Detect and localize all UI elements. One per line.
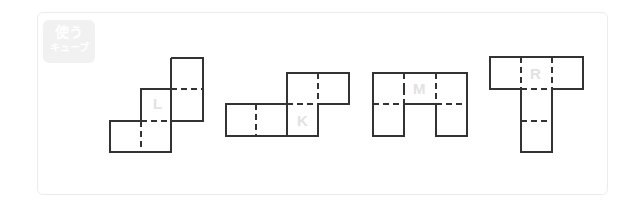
- net-label-m: M: [413, 80, 426, 97]
- net-label-l: L: [153, 95, 162, 112]
- cube-nets: [0, 0, 635, 207]
- net-k: [226, 73, 349, 136]
- net-label-k: K: [297, 112, 308, 129]
- net-label-r: R: [530, 65, 541, 82]
